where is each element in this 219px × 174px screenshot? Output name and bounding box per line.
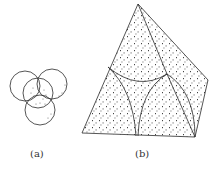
circle-bottom xyxy=(25,95,55,125)
panel-b-label: (b) xyxy=(135,148,149,159)
circle-right xyxy=(37,69,67,99)
panel-a-label: (a) xyxy=(30,148,44,159)
panel-a-circles xyxy=(10,69,67,125)
panel-b-tetrahedron xyxy=(82,4,208,137)
